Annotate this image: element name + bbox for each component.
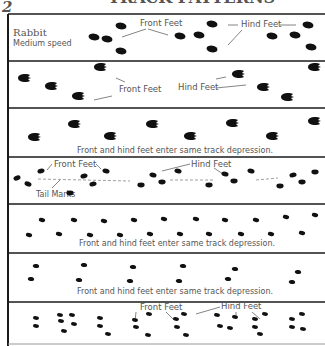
track-mark — [230, 179, 237, 184]
hind-feet-label: Hind Feet — [191, 159, 232, 169]
track-mark — [174, 32, 186, 41]
track-mark — [289, 325, 296, 330]
track-mark — [281, 93, 294, 101]
track-mark — [55, 231, 62, 237]
track-mark — [180, 263, 187, 268]
front-feet-label: Front Feet — [140, 18, 183, 28]
panel-caption: Front and hind feet enter same track dep… — [77, 146, 273, 155]
track-mark — [70, 217, 77, 223]
track-mark — [300, 327, 307, 332]
track-mark — [311, 212, 318, 218]
track-mark — [227, 326, 234, 331]
track-mark — [183, 333, 190, 338]
track-mark — [45, 82, 58, 90]
hind-feet-label: Hind Feet — [178, 82, 219, 92]
track-mark — [257, 83, 270, 91]
track-mark — [28, 276, 35, 281]
track-mark — [33, 324, 40, 329]
track-mark — [214, 313, 221, 318]
track-mark — [61, 329, 68, 334]
panel-3: Front and hind feet enter same track dep… — [28, 117, 321, 155]
track-mark — [145, 333, 152, 338]
track-mark — [217, 324, 224, 329]
track-mark — [266, 32, 278, 41]
track-mark — [176, 278, 183, 283]
track-marks — [28, 117, 321, 141]
track-mark — [133, 325, 140, 330]
track-mark — [104, 132, 117, 140]
track-mark — [176, 231, 183, 237]
track-mark — [174, 168, 182, 174]
track-mark — [89, 181, 97, 187]
track-mark — [25, 232, 32, 238]
track-mark — [174, 325, 181, 330]
track-mark — [232, 70, 245, 78]
track-mark — [33, 316, 40, 321]
track-mark — [289, 31, 301, 40]
panel-2: Front Feet Hind Feet — [18, 63, 321, 101]
track-mark — [289, 172, 297, 178]
track-mark — [28, 133, 41, 141]
track-mark — [69, 313, 76, 318]
track-mark — [226, 119, 239, 127]
front-feet-label: Front Feet — [140, 302, 183, 312]
front-feet-label: Front Feet — [54, 159, 97, 169]
track-mark — [146, 120, 159, 128]
track-mark — [57, 313, 64, 318]
track-mark — [97, 324, 104, 329]
panel-subtitle: Medium speed — [13, 39, 72, 48]
track-mark — [146, 312, 153, 317]
track-mark — [137, 183, 144, 188]
panel-rabbit-medium: Rabbit Medium speed Front Feet Hind Feet — [13, 18, 317, 55]
hind-feet-label: Hind Feet — [241, 19, 282, 29]
track-mark — [115, 22, 127, 31]
track-mark — [66, 191, 73, 196]
track-mark — [266, 132, 279, 140]
track-mark — [193, 31, 205, 40]
track-mark — [247, 168, 255, 174]
track-mark — [282, 214, 289, 220]
track-mark — [94, 63, 107, 71]
track-mark — [33, 263, 40, 268]
track-mark — [184, 132, 197, 140]
track-mark — [302, 21, 314, 30]
header-title-cropped: TRACK PATTERNS — [108, 0, 275, 7]
track-mark — [115, 47, 127, 56]
track-mark — [97, 316, 104, 321]
track-mark — [71, 322, 78, 327]
track-mark — [18, 74, 31, 82]
track-mark — [81, 262, 88, 267]
track-mark — [158, 180, 165, 185]
track-mark — [127, 278, 134, 283]
track-mark — [72, 92, 85, 100]
track-marks — [25, 212, 318, 238]
track-mark — [181, 312, 188, 317]
track-mark — [105, 332, 112, 337]
track-mark — [58, 319, 65, 324]
track-mark — [295, 269, 302, 274]
track-mark — [86, 232, 93, 238]
panel-caption: Front and hind feet enter same track dep… — [79, 239, 275, 248]
track-mark — [206, 45, 218, 54]
track-patterns-diagram: 2 TRACK PATTERNS Rabbit Medium speed Fro… — [0, 0, 325, 346]
track-mark — [80, 173, 88, 179]
track-mark — [308, 63, 321, 71]
panel-title: Rabbit — [13, 27, 47, 38]
track-mark — [130, 217, 137, 223]
track-mark — [116, 232, 123, 238]
track-mark — [311, 170, 318, 175]
hind-feet-label: Hind Feet — [221, 301, 262, 311]
track-mark — [149, 172, 157, 178]
track-mark — [24, 181, 32, 188]
track-mark — [221, 171, 229, 177]
track-mark — [101, 35, 113, 44]
track-marks — [18, 63, 321, 101]
track-mark — [102, 168, 110, 174]
track-mark — [13, 175, 21, 182]
track-mark — [252, 325, 259, 330]
front-feet-label: Front Feet — [119, 84, 162, 94]
track-mark — [146, 231, 153, 237]
track-mark — [221, 217, 228, 223]
track-mark — [257, 332, 264, 337]
panel-caption: Front and hind feet enter same track dep… — [77, 287, 273, 296]
